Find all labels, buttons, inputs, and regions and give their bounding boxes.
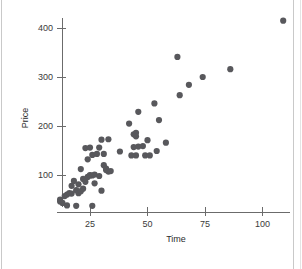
data-point xyxy=(96,173,102,179)
data-point xyxy=(78,166,84,172)
data-point xyxy=(94,151,100,157)
x-tick-label: 25 xyxy=(85,219,95,229)
x-axis-title: Time xyxy=(166,234,186,244)
data-point xyxy=(96,144,102,150)
y-tick-label: 200 xyxy=(38,121,53,131)
x-axis: 255075100 xyxy=(57,207,290,229)
data-point xyxy=(92,180,98,186)
y-tick-label: 100 xyxy=(38,170,53,180)
data-point xyxy=(133,152,139,158)
data-point xyxy=(163,140,169,146)
plot-area: 100200300400 255075100 Price Time xyxy=(0,0,302,269)
data-point xyxy=(101,151,107,157)
data-point xyxy=(156,117,162,123)
y-axis: 100200300400 xyxy=(38,18,66,207)
data-point xyxy=(200,74,206,80)
data-point xyxy=(80,186,86,192)
x-tick-label: 100 xyxy=(255,219,270,229)
x-tick-label: 50 xyxy=(142,219,152,229)
data-point xyxy=(75,181,81,187)
data-point xyxy=(140,143,146,149)
x-tick-label: 75 xyxy=(200,219,210,229)
data-point xyxy=(85,156,91,162)
data-point xyxy=(147,152,153,158)
data-point xyxy=(108,168,114,174)
data-point xyxy=(98,137,104,143)
data-point xyxy=(126,120,132,126)
data-point xyxy=(117,148,123,154)
data-point xyxy=(98,188,104,194)
data-point xyxy=(174,54,180,60)
data-point xyxy=(177,92,183,98)
data-point xyxy=(151,100,157,106)
data-point xyxy=(280,18,286,24)
y-axis-title: Price xyxy=(20,108,30,129)
data-point xyxy=(87,144,93,150)
data-point xyxy=(73,203,79,209)
data-point xyxy=(89,203,95,209)
data-points-layer xyxy=(57,18,286,209)
data-point xyxy=(133,133,139,139)
data-point xyxy=(144,137,150,143)
data-point xyxy=(154,148,160,154)
data-point xyxy=(64,202,70,208)
scatter-plot-figure: 100200300400 255075100 Price Time xyxy=(0,0,302,269)
data-point xyxy=(186,82,192,88)
data-point xyxy=(135,109,141,115)
y-tick-label: 300 xyxy=(38,72,53,82)
data-point xyxy=(105,136,111,142)
data-point xyxy=(227,66,233,72)
y-tick-label: 400 xyxy=(38,23,53,33)
